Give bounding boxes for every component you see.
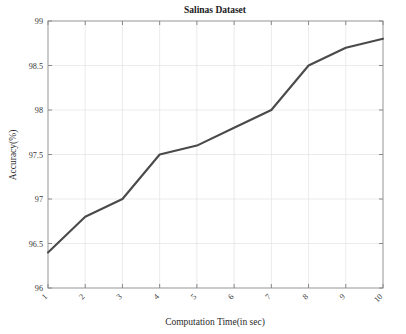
y-tick-label: 98.5 <box>29 62 43 71</box>
y-tick-label: 97.5 <box>29 151 43 160</box>
chart-title: Salinas Dataset <box>184 5 247 15</box>
y-tick-label: 97 <box>35 195 43 204</box>
x-axis-label: Computation Time(in sec) <box>165 317 265 328</box>
y-axis-label: Accuracy(%) <box>8 130 19 181</box>
y-tick-label: 96.5 <box>29 240 43 249</box>
y-tick-label: 99 <box>35 17 43 26</box>
y-tick-label: 98 <box>35 106 43 115</box>
chart-figure: 12345678910 9696.59797.59898.599 Salinas… <box>0 0 406 334</box>
y-tick-label: 96 <box>35 284 43 293</box>
salinas-accuracy-line-chart: 12345678910 9696.59797.59898.599 Salinas… <box>0 0 406 334</box>
